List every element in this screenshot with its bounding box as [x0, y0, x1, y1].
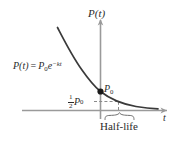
- one-half-fraction: 1 2: [68, 94, 74, 110]
- y-axis-title-text: P(t): [88, 7, 105, 19]
- half-life-caption: Half-life: [100, 121, 138, 132]
- equation-equals-sign: =: [31, 60, 37, 71]
- half-life-caption-text: Half-life: [100, 120, 138, 132]
- equation-exponent: −kt: [52, 60, 62, 67]
- initial-value-dot: [97, 88, 103, 94]
- x-axis-title: t: [163, 113, 166, 123]
- equation-left-side: P(t): [13, 60, 29, 71]
- x-axis-title-text: t: [163, 112, 166, 123]
- half-value-label: 1 2 P0: [68, 94, 84, 110]
- initial-value-subscript: 0: [110, 88, 113, 95]
- exponential-decay-figure: P(t) t P(t)=P0e−kt P0 1 2 P0 Half-life: [0, 0, 179, 154]
- figure-canvas: [0, 0, 179, 154]
- fraction-denominator: 2: [68, 103, 74, 110]
- half-value-subscript: 0: [80, 99, 83, 106]
- initial-value-label: P0: [104, 84, 114, 95]
- y-axis-title: P(t): [88, 8, 105, 19]
- decay-equation-label: P(t)=P0e−kt: [13, 61, 62, 72]
- half-life-brace: [105, 113, 134, 120]
- y-axis: [98, 19, 104, 119]
- fraction-numerator: 1: [68, 94, 74, 101]
